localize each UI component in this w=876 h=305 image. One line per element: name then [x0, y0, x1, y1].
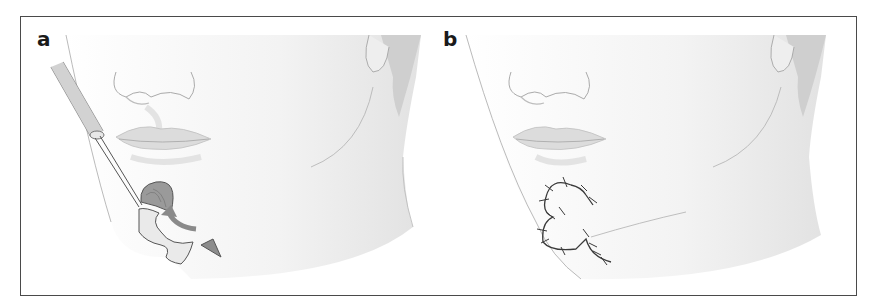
panel-b: b	[441, 17, 856, 295]
face-illustration-a	[21, 17, 441, 297]
panel-label-a: a	[37, 29, 51, 49]
face-illustration-b	[441, 17, 856, 297]
panel-label-b: b	[443, 29, 457, 49]
figure-frame: a	[20, 16, 857, 296]
panel-a: a	[21, 17, 441, 295]
